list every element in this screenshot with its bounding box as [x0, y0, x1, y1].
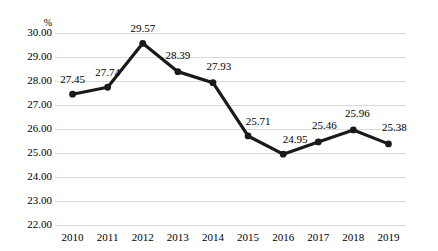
data-point-label: 27.93: [199, 61, 239, 72]
y-axis-tick-label: 22.00: [6, 219, 52, 230]
y-axis-tick-label: 27.00: [6, 99, 52, 110]
data-point-marker: [315, 139, 322, 146]
data-point-label: 25.71: [238, 116, 278, 127]
data-point-marker: [139, 40, 146, 47]
x-axis-tick-label: 2012: [123, 232, 163, 243]
x-axis-tick-label: 2010: [53, 232, 93, 243]
line-chart: % 30.0029.0028.0027.0026.0025.0024.0023.…: [0, 0, 438, 251]
data-point-label: 25.38: [374, 122, 414, 133]
data-point-marker: [385, 140, 392, 147]
x-axis-tick-label: 2016: [263, 232, 303, 243]
data-point-label: 28.39: [158, 50, 198, 61]
data-point-label: 25.46: [304, 120, 344, 131]
data-point-label: 25.96: [337, 108, 377, 119]
y-axis-tick-label: 28.00: [6, 75, 52, 86]
y-axis-tick-label: 24.00: [6, 171, 52, 182]
y-axis-tick-label: 30.00: [6, 27, 52, 38]
data-point-label: 29.57: [123, 23, 163, 34]
data-point-label: 24.95: [275, 134, 315, 145]
x-axis-tick-label: 2013: [158, 232, 198, 243]
data-point-label: 27.45: [53, 74, 93, 85]
y-axis-tick-label: 29.00: [6, 51, 52, 62]
x-axis-tick-label: 2011: [88, 232, 128, 243]
data-point-marker: [104, 84, 111, 91]
y-axis-tick-label: 26.00: [6, 123, 52, 134]
x-axis-tick-label: 2017: [298, 232, 338, 243]
y-axis-tick-label: 23.00: [6, 195, 52, 206]
x-axis-tick-label: 2015: [228, 232, 268, 243]
data-point-marker: [350, 127, 357, 134]
data-point-marker: [174, 68, 181, 75]
data-point-marker: [280, 151, 287, 158]
data-point-label: 27.74: [88, 67, 128, 78]
data-point-marker: [210, 79, 217, 86]
data-point-marker: [245, 133, 252, 140]
chart-plot-area: [0, 0, 438, 251]
x-axis-tick-label: 2019: [368, 232, 408, 243]
data-point-marker: [69, 91, 76, 98]
x-axis-tick-label: 2018: [333, 232, 373, 243]
y-axis-tick-label: 25.00: [6, 147, 52, 158]
x-axis-tick-label: 2014: [193, 232, 233, 243]
